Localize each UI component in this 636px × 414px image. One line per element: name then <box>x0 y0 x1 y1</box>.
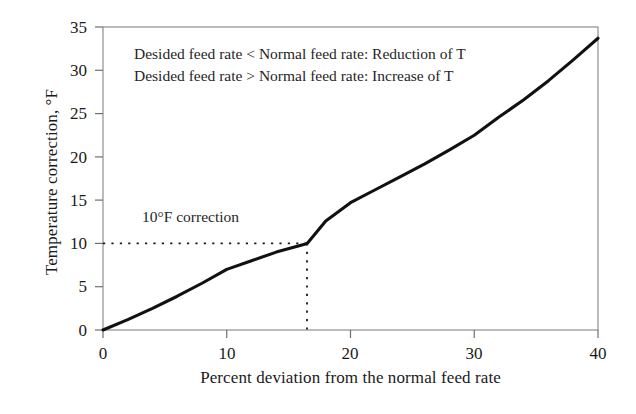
annotation-increase-note: Desided feed rate > Normal feed rate: In… <box>134 66 454 85</box>
xtick-label-30: 30 <box>454 345 494 362</box>
y-axis-title: Temperature correction, °F <box>42 22 62 342</box>
x-axis-title: Percent deviation from the normal feed r… <box>103 368 598 388</box>
chart-figure: 35 30 25 20 15 10 5 0 0 10 20 30 40 Temp… <box>0 0 636 414</box>
y-axis-ticks <box>95 27 103 330</box>
x-axis-ticks <box>103 330 598 338</box>
annotation-reduction-note: Desided feed rate < Normal feed rate: Re… <box>134 44 466 63</box>
xtick-label-0: 0 <box>83 345 123 362</box>
annotation-10f-correction-label: 10°F correction <box>142 208 239 226</box>
xtick-label-20: 20 <box>330 345 370 362</box>
xtick-label-10: 10 <box>207 345 247 362</box>
xtick-label-40: 40 <box>578 345 618 362</box>
